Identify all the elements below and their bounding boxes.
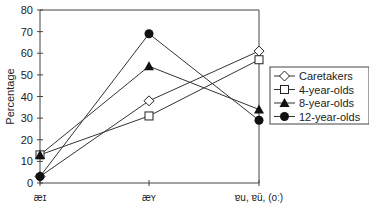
x-tick-label: æɪ — [34, 192, 47, 203]
line-chart: 01020304050607080æɪæʏɐu, ɐü, (oː)Percent… — [0, 0, 369, 210]
series-line-4-year-olds — [40, 60, 259, 155]
legend: Caretakers4-year-olds8-year-olds12-year-… — [270, 67, 369, 124]
y-tick-label: 60 — [21, 47, 33, 59]
filled-circle-marker — [280, 112, 289, 121]
y-tick-label: 10 — [21, 155, 33, 167]
y-tick-label: 0 — [27, 177, 33, 189]
y-tick-label: 50 — [21, 69, 33, 81]
open-square-marker — [281, 86, 289, 94]
open-square-marker — [255, 56, 263, 64]
filled-circle-marker — [255, 116, 264, 125]
legend-entry: 8-year-olds — [299, 97, 355, 109]
filled-circle-marker — [36, 172, 45, 181]
y-tick-label: 40 — [21, 91, 33, 103]
legend-entry: Caretakers — [299, 70, 353, 82]
filled-triangle-marker — [254, 104, 264, 113]
x-tick-label: ɐu, ɐü, (oː) — [235, 192, 283, 203]
y-axis-label: Percentage — [4, 68, 16, 124]
y-tick-label: 80 — [21, 4, 33, 16]
series-line-8-year-olds — [40, 66, 259, 155]
legend-entry: 4-year-olds — [299, 84, 355, 96]
y-tick-label: 70 — [21, 26, 33, 38]
x-tick-label: æʏ — [142, 192, 157, 203]
open-square-marker — [145, 112, 153, 120]
filled-triangle-marker — [144, 61, 154, 70]
y-tick-label: 20 — [21, 134, 33, 146]
open-diamond-marker — [254, 46, 264, 56]
filled-circle-marker — [145, 29, 154, 38]
legend-entry: 12-year-olds — [299, 111, 361, 123]
y-tick-label: 30 — [21, 112, 33, 124]
open-diamond-marker — [144, 96, 154, 106]
